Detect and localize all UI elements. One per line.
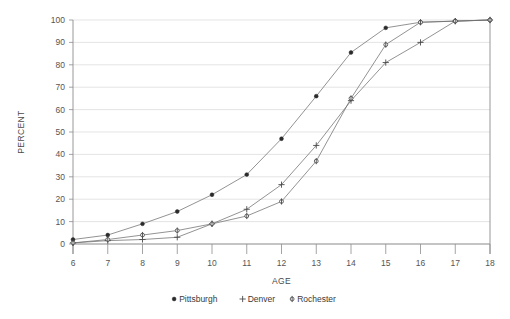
x-tick-label-14: 14 [346,258,356,268]
y-axis-title: PERCENT [16,110,26,153]
x-tick-label-9: 9 [175,258,180,268]
series-pittsburgh [71,18,492,241]
chart-legend: PittsburghDenverRochester [172,294,336,304]
marker-filled-circle-pittsburgh-14 [349,51,353,55]
x-tick-labels-group: 6789101112131415161718 [71,258,495,268]
line-chart: 0102030405060708090100 67891011121314151… [0,0,510,319]
series-denver [70,17,493,246]
marker-filled-circle-pittsburgh-12 [280,137,284,141]
y-tick-labels-group: 0102030405060708090100 [51,15,65,249]
legend-label-rochester: Rochester [297,294,336,304]
y-tick-label-40: 40 [56,149,66,159]
legend-label-denver: Denver [248,294,276,304]
chart-container: 0102030405060708090100 67891011121314151… [0,0,510,319]
x-tick-label-8: 8 [140,258,145,268]
legend-label-pittsburgh: Pittsburgh [179,294,218,304]
x-tick-label-7: 7 [105,258,110,268]
x-tick-label-11: 11 [242,258,251,268]
legend-item-rochester[interactable]: Rochester [290,294,336,304]
y-tick-label-70: 70 [56,82,66,92]
x-tick-label-15: 15 [381,258,391,268]
series-line-pittsburgh [73,20,490,240]
x-tick-label-12: 12 [277,258,287,268]
data-series-group [70,17,493,246]
gridlines-group [73,20,490,244]
y-tick-label-60: 60 [56,105,66,115]
x-tick-label-17: 17 [451,258,461,268]
marker-filled-circle-pittsburgh-7 [106,233,110,237]
y-tick-label-100: 100 [51,15,65,25]
x-tick-label-16: 16 [416,258,426,268]
marker-filled-circle-pittsburgh-15 [384,26,388,30]
y-tick-label-20: 20 [56,194,66,204]
series-line-rochester [73,20,490,243]
x-tick-label-13: 13 [312,258,322,268]
series-line-denver [73,20,490,243]
y-tick-label-80: 80 [56,60,66,70]
x-axis-title: AGE [272,276,291,286]
axes-group [69,20,490,254]
x-tick-label-10: 10 [207,258,217,268]
marker-filled-circle-pittsburgh-11 [245,173,249,177]
marker-filled-circle-pittsburgh-8 [141,222,145,226]
marker-filled-circle-pittsburgh-9 [175,210,179,214]
legend-item-denver[interactable]: Denver [240,294,276,304]
y-tick-label-10: 10 [56,217,66,227]
y-tick-label-30: 30 [56,172,66,182]
y-tick-label-0: 0 [60,239,65,249]
y-tick-label-90: 90 [56,37,66,47]
marker-filled-circle-pittsburgh-13 [314,94,318,98]
x-tick-label-18: 18 [485,258,495,268]
marker-filled-circle-pittsburgh-10 [210,193,214,197]
marker-filled-circle-legend-pittsburgh [172,297,176,301]
y-tick-label-50: 50 [56,127,66,137]
x-tick-label-6: 6 [71,258,76,268]
series-rochester [71,17,492,246]
legend-item-pittsburgh[interactable]: Pittsburgh [172,294,217,304]
